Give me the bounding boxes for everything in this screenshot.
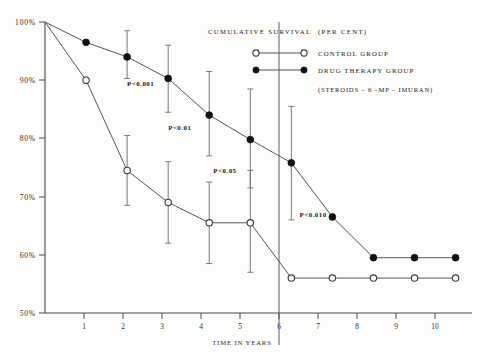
data-point [247, 136, 254, 143]
data-point [288, 159, 295, 166]
legend-label-drug: DRUG THERAPY GROUP [318, 67, 414, 74]
legend-marker-filled-circle-2 [301, 67, 307, 73]
legend-label-control: CONTROL GROUP [318, 50, 389, 57]
chart-legend: CUMULATIVE SURVIVAL (PER CENT) CONTROL G… [208, 28, 433, 94]
x-tick-label-1: 1 [82, 322, 86, 331]
y-tick-label-100: 100% [15, 18, 36, 27]
y-tick-label-60: 60% [20, 251, 36, 260]
data-point [83, 77, 89, 83]
data-point [411, 254, 418, 261]
x-tick-label-8: 8 [355, 322, 359, 331]
chart-svg: 100% 90% 80% 70% 60% 50% 1 2 3 4 5 6 7 [0, 0, 484, 357]
x-axis-title: TIME IN YEARS [212, 339, 271, 346]
survival-chart: 100% 90% 80% 70% 60% 50% 1 2 3 4 5 6 7 [0, 0, 484, 357]
p-value-annotation: P<0.010 [300, 211, 327, 218]
data-point [329, 214, 336, 221]
legend-marker-open-circle-2 [301, 50, 307, 56]
y-tick-label-50: 50% [20, 309, 36, 318]
data-point [83, 39, 90, 46]
x-tick-label-4: 4 [199, 322, 203, 331]
legend-note: (STEROIDS – 6 –MP – IMURAN) [318, 86, 433, 94]
legend-entry-drug: DRUG THERAPY GROUP [253, 67, 415, 74]
x-axis-ticks: 1 2 3 4 5 6 7 8 9 10 [82, 313, 439, 331]
data-point [288, 275, 294, 281]
data-point [247, 220, 253, 226]
data-point [124, 54, 131, 61]
legend-marker-open-circle [253, 50, 259, 56]
x-tick-label-5: 5 [238, 322, 242, 331]
y-tick-label-70: 70% [20, 193, 36, 202]
legend-title: CUMULATIVE SURVIVAL [208, 28, 312, 35]
data-point [124, 167, 130, 173]
series-control [45, 22, 459, 281]
x-tick-label-3: 3 [160, 322, 164, 331]
x-tick-label-2: 2 [121, 322, 125, 331]
x-tick-label-9: 9 [394, 322, 398, 331]
x-tick-label-10: 10 [431, 322, 439, 331]
p-value-annotation: P<0.05 [213, 167, 236, 174]
chart-annotations: P<0.001P<0.01P<0.05P<0.010 [127, 80, 327, 218]
x-tick-label-7: 7 [316, 322, 320, 331]
data-point [411, 275, 417, 281]
data-point [370, 254, 377, 261]
p-value-annotation: P<0.01 [168, 124, 191, 131]
legend-entry-control: CONTROL GROUP [253, 50, 389, 57]
p-value-annotation: P<0.001 [127, 80, 154, 87]
y-tick-label-80: 80% [20, 134, 36, 143]
data-point [206, 220, 212, 226]
data-point [452, 254, 459, 261]
legend-units: (PER CENT) [318, 28, 367, 36]
data-point [165, 75, 172, 82]
data-point [370, 275, 376, 281]
data-point [165, 199, 171, 205]
data-point [206, 112, 213, 119]
chart-axes [45, 22, 472, 313]
y-axis-ticks: 100% 90% 80% 70% 60% 50% [15, 18, 45, 318]
chart-plot-layer [45, 22, 459, 281]
y-tick-label-90: 90% [20, 76, 36, 85]
data-point [452, 275, 458, 281]
data-point [329, 275, 335, 281]
legend-marker-filled-circle [253, 67, 259, 73]
